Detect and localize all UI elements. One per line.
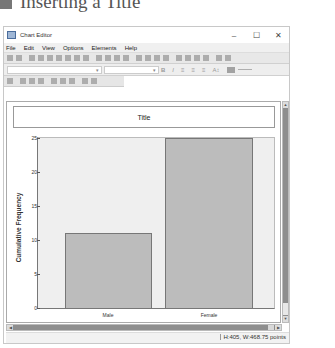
chevron-down-icon: ▾ bbox=[151, 67, 158, 73]
chart-canvas[interactable]: Title Cumulative Frequency 0 5 10 15 20 … bbox=[6, 101, 281, 323]
y-tick-15: 15 bbox=[28, 203, 37, 209]
insert-footnote-icon[interactable] bbox=[163, 55, 169, 61]
dropline-icon[interactable] bbox=[69, 78, 75, 84]
y-tick-5: 5 bbox=[28, 271, 37, 277]
bar-male[interactable] bbox=[65, 233, 152, 308]
fill-icon[interactable] bbox=[74, 55, 80, 61]
y-axis-icon[interactable] bbox=[47, 55, 53, 61]
reference-line-x-icon[interactable] bbox=[114, 55, 120, 61]
heading-number-block bbox=[0, 0, 12, 9]
rescale-y-icon[interactable] bbox=[65, 55, 71, 61]
redo-icon[interactable] bbox=[16, 55, 22, 61]
menu-edit[interactable]: Edit bbox=[24, 45, 34, 51]
transpose-icon[interactable] bbox=[216, 55, 222, 61]
data-labels-icon[interactable] bbox=[96, 55, 102, 61]
plot-area[interactable]: Cumulative Frequency 0 5 10 15 20 25 Mal… bbox=[37, 137, 275, 309]
bar-chart-icon[interactable] bbox=[20, 78, 26, 84]
chart-title-box[interactable]: Title bbox=[13, 106, 275, 128]
chart-editor-icon bbox=[7, 31, 16, 39]
scroll-up-icon[interactable]: ▲ bbox=[283, 102, 288, 108]
align-left-button[interactable]: ≡ bbox=[181, 67, 185, 73]
fill-color-icon[interactable] bbox=[227, 67, 235, 73]
vertical-scroll-thumb[interactable] bbox=[283, 303, 288, 315]
fit-line-icon[interactable] bbox=[123, 55, 129, 61]
show-points-icon[interactable] bbox=[203, 55, 209, 61]
show-grid-icon[interactable] bbox=[176, 55, 182, 61]
chart-size-status: H:405, W:468.75 points bbox=[220, 334, 286, 340]
format-toolbar: ▾ ▾ B I ≡ ≡ ≡ A↕ bbox=[4, 64, 289, 76]
font-family-select[interactable]: ▾ bbox=[7, 66, 102, 74]
scroll-down-icon[interactable]: ▼ bbox=[283, 316, 288, 322]
show-derived-axis-icon[interactable] bbox=[194, 55, 200, 61]
chart-type-icon[interactable] bbox=[225, 55, 231, 61]
maximize-button[interactable]: ☐ bbox=[245, 31, 267, 40]
chart-title[interactable]: Title bbox=[138, 114, 151, 121]
chart-editor-window: Chart Editor – ☐ ✕ File Edit View Option… bbox=[3, 26, 290, 344]
y-tick-20: 20 bbox=[28, 169, 37, 175]
x-label-male: Male bbox=[103, 312, 114, 318]
scroll-right-icon[interactable]: ▶ bbox=[275, 325, 281, 330]
heading-text: Inserting a Title bbox=[20, 0, 140, 13]
menu-file[interactable]: File bbox=[6, 45, 16, 51]
main-toolbar bbox=[4, 53, 289, 64]
horizontal-scroll-thumb[interactable] bbox=[268, 325, 274, 330]
scatter-icon[interactable] bbox=[51, 78, 57, 84]
properties-icon[interactable] bbox=[29, 55, 35, 61]
scroll-left-icon[interactable]: ◀ bbox=[7, 325, 13, 330]
undo-icon[interactable] bbox=[7, 55, 13, 61]
menu-options[interactable]: Options bbox=[63, 45, 84, 51]
bold-button[interactable]: B bbox=[161, 67, 165, 73]
line-style-icon[interactable] bbox=[238, 69, 252, 70]
rescale-x-icon[interactable] bbox=[56, 55, 62, 61]
x-axis-icon[interactable] bbox=[38, 55, 44, 61]
insert-textbox-icon[interactable] bbox=[154, 55, 160, 61]
align-right-button[interactable]: ≡ bbox=[202, 67, 206, 73]
italic-button[interactable]: I bbox=[172, 67, 174, 73]
section-heading: Inserting a Title bbox=[0, 0, 335, 12]
align-center-button[interactable]: ≡ bbox=[192, 67, 196, 73]
close-button[interactable]: ✕ bbox=[267, 31, 289, 40]
chevron-down-icon: ▾ bbox=[94, 67, 101, 73]
font-size-select[interactable]: ▾ bbox=[104, 66, 159, 74]
y-axis-label[interactable]: Cumulative Frequency bbox=[15, 188, 22, 268]
vertical-scrollbar[interactable]: ▲ ▼ bbox=[282, 101, 289, 323]
y-tick-10: 10 bbox=[28, 237, 37, 243]
pie-chart-icon[interactable] bbox=[91, 78, 97, 84]
menu-help[interactable]: Help bbox=[125, 45, 137, 51]
histogram-icon[interactable] bbox=[82, 78, 88, 84]
x-label-female: Female bbox=[201, 312, 218, 318]
menu-elements[interactable]: Elements bbox=[92, 45, 117, 51]
line-chart-icon[interactable] bbox=[38, 78, 44, 84]
window-title: Chart Editor bbox=[20, 32, 223, 38]
menu-bar: File Edit View Options Elements Help bbox=[4, 43, 289, 53]
text-size-button[interactable]: A↕ bbox=[213, 67, 220, 73]
insert-title-icon[interactable] bbox=[136, 55, 142, 61]
area-chart-icon[interactable] bbox=[60, 78, 66, 84]
minimize-button[interactable]: – bbox=[223, 31, 245, 40]
y-tick-0: 0 bbox=[28, 305, 37, 311]
reference-line-y-icon[interactable] bbox=[105, 55, 111, 61]
chart-properties-icon[interactable] bbox=[7, 78, 13, 84]
lasso-icon[interactable] bbox=[83, 55, 89, 61]
y-tick-25: 25 bbox=[28, 135, 37, 141]
stacked-bar-icon[interactable] bbox=[29, 78, 35, 84]
chart-elements-toolbar bbox=[4, 76, 124, 87]
title-bar: Chart Editor – ☐ ✕ bbox=[4, 27, 289, 43]
insert-annotation-icon[interactable] bbox=[145, 55, 151, 61]
horizontal-scrollbar[interactable]: ◀ ▶ bbox=[6, 324, 282, 331]
status-bar: H:405, W:468.75 points bbox=[6, 332, 289, 343]
show-legend-icon[interactable] bbox=[185, 55, 191, 61]
bar-female[interactable] bbox=[165, 138, 253, 308]
menu-view[interactable]: View bbox=[42, 45, 55, 51]
